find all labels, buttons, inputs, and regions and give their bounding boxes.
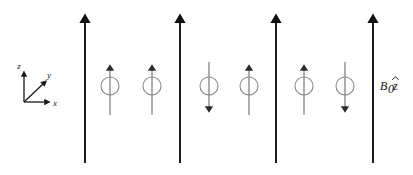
spin-6	[336, 62, 354, 107]
coordinate-axes-group: z y x	[16, 61, 57, 108]
x-axis-label: x	[52, 98, 57, 108]
spin-4	[240, 70, 258, 115]
field-label-zhat: z	[392, 79, 398, 93]
spin-1	[101, 70, 119, 115]
field-strength-label: B 0 z	[380, 77, 399, 96]
spin-2	[143, 70, 161, 115]
y-axis-arrow	[24, 84, 43, 102]
spin-field-diagram: z y x	[0, 0, 413, 175]
field-lines-group	[85, 22, 373, 163]
spin-3	[200, 62, 218, 107]
spin-5	[295, 70, 313, 115]
field-label-b: B	[380, 79, 388, 93]
z-axis-label: z	[16, 61, 21, 71]
diagram-canvas: z y x	[0, 0, 413, 175]
y-axis-label: y	[46, 70, 51, 80]
